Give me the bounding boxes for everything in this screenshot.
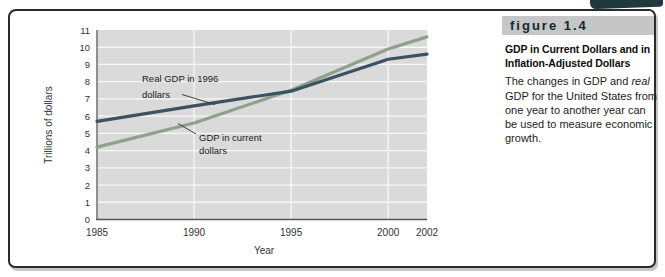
y-tick-label: 6: [85, 111, 90, 122]
annotation-text: Real GDP in 1996: [142, 73, 218, 84]
caption-title-line2: Inflation-Adjusted Dollars: [505, 57, 659, 71]
y-tick-label: 3: [85, 162, 90, 173]
x-tick-label: 2002: [416, 227, 439, 238]
y-tick-label: 8: [85, 76, 90, 87]
gdp-line-chart: 0123456789101119851990199520002002Trilli…: [32, 20, 472, 265]
figure-panel: 0123456789101119851990199520002002Trilli…: [8, 9, 656, 268]
caption-body-italic: real: [631, 75, 649, 87]
x-axis-title: Year: [254, 245, 275, 256]
y-axis-title: Trillions of dollars: [43, 86, 54, 163]
y-tick-label: 1: [85, 197, 90, 208]
caption-body-post: GDP for the United States from one year …: [505, 90, 657, 145]
x-tick-label: 1990: [183, 227, 206, 238]
y-tick-label: 2: [85, 180, 90, 191]
annotation-text: dollars: [142, 89, 170, 100]
figure-label: figure 1.4: [510, 18, 588, 33]
figure-label-bar: figure 1.4: [502, 16, 654, 35]
y-tick-label: 0: [85, 214, 90, 225]
y-tick-label: 9: [85, 59, 90, 70]
annotation-text: GDP in current: [199, 132, 262, 143]
caption-title: GDP in Current Dollars and in Inflation-…: [505, 43, 659, 70]
caption-body-pre: The changes in GDP and: [505, 75, 631, 87]
y-tick-label: 10: [79, 42, 90, 53]
x-tick-label: 1985: [86, 227, 109, 238]
y-tick-label: 7: [85, 93, 90, 104]
caption-body: The changes in GDP and real GDP for the …: [505, 74, 659, 145]
y-tick-label: 11: [80, 25, 90, 36]
caption-block: GDP in Current Dollars and in Inflation-…: [505, 43, 659, 146]
caption-title-line1: GDP in Current Dollars and in: [505, 43, 659, 57]
x-tick-label: 2000: [377, 227, 400, 238]
x-tick-label: 1995: [280, 227, 303, 238]
page: 0123456789101119851990199520002002Trilli…: [0, 0, 665, 277]
annotation-text: dollars: [199, 145, 227, 156]
y-tick-label: 5: [85, 128, 90, 139]
page-corner-tab: [590, 0, 663, 9]
plot-area: [97, 30, 427, 220]
y-tick-label: 4: [85, 145, 90, 156]
